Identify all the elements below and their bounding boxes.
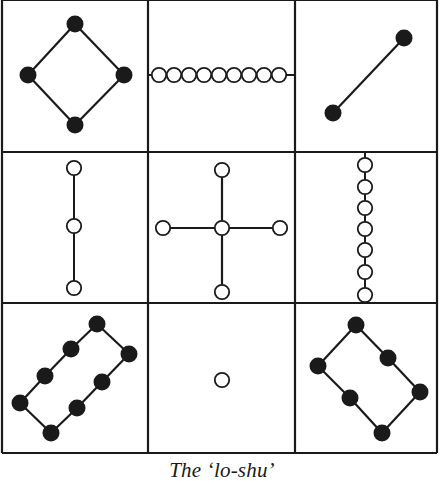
connector-line	[75, 24, 124, 75]
open-dot-icon	[273, 221, 287, 235]
filled-dot-icon	[348, 317, 365, 334]
open-dot-icon	[215, 373, 229, 387]
open-dot-icon	[197, 68, 211, 82]
open-dot-icon	[272, 68, 286, 82]
open-dot-icon	[67, 281, 81, 295]
lo-shu-diagram	[0, 0, 444, 456]
filled-dot-icon	[69, 400, 86, 417]
cell-7	[358, 152, 372, 302]
open-dot-icon	[358, 243, 372, 257]
open-dot-icon	[227, 68, 241, 82]
open-dot-icon	[358, 222, 372, 236]
filled-dot-icon	[380, 350, 397, 367]
open-dot-icon	[212, 68, 226, 82]
open-dot-icon	[358, 180, 372, 194]
filled-dot-icon	[412, 384, 429, 401]
filled-dot-icon	[37, 368, 54, 385]
open-dot-icon	[167, 68, 181, 82]
open-dot-icon	[215, 221, 229, 235]
open-dot-icon	[215, 163, 229, 177]
cell-9	[148, 68, 295, 82]
cell-5	[156, 163, 287, 299]
connector-line	[28, 75, 75, 125]
cell-8	[12, 316, 138, 442]
cell-4	[20, 16, 133, 134]
open-dot-icon	[67, 219, 81, 233]
open-dot-icon	[358, 201, 372, 215]
open-dot-icon	[358, 158, 372, 172]
filled-dot-icon	[12, 395, 29, 412]
filled-dot-icon	[89, 316, 106, 333]
cell-3	[67, 161, 81, 295]
filled-dot-icon	[43, 425, 60, 442]
open-dot-icon	[358, 265, 372, 279]
magic-square-cells	[12, 16, 429, 442]
filled-dot-icon	[20, 67, 37, 84]
filled-dot-icon	[121, 346, 138, 363]
figure-caption: The ‘lo-shu’	[0, 458, 444, 483]
filled-dot-icon	[116, 67, 133, 84]
open-dot-icon	[67, 161, 81, 175]
filled-dot-icon	[325, 105, 342, 122]
open-dot-icon	[358, 288, 372, 302]
filled-dot-icon	[374, 425, 391, 442]
open-dot-icon	[242, 68, 256, 82]
open-dot-icon	[182, 68, 196, 82]
cell-2	[325, 30, 413, 122]
filled-dot-icon	[396, 30, 413, 47]
cell-6	[310, 317, 429, 442]
open-dot-icon	[156, 221, 170, 235]
filled-dot-icon	[342, 390, 359, 407]
filled-dot-icon	[67, 16, 84, 33]
open-dot-icon	[215, 285, 229, 299]
filled-dot-icon	[310, 358, 327, 375]
filled-dot-icon	[63, 341, 80, 358]
open-dot-icon	[257, 68, 271, 82]
connector-line	[28, 24, 75, 75]
filled-dot-icon	[67, 117, 84, 134]
connector-line	[75, 75, 124, 125]
filled-dot-icon	[94, 374, 111, 391]
cell-1	[215, 373, 229, 387]
connector-line	[333, 38, 404, 113]
open-dot-icon	[152, 68, 166, 82]
